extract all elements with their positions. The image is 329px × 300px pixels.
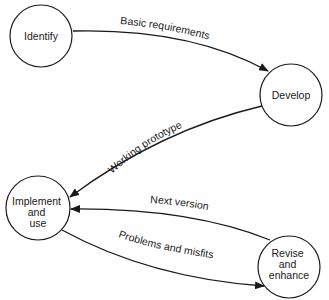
edge-label-working-prototype: Working prototype [105,118,183,175]
node-revise: Revise and enhance [258,236,320,298]
prototyping-cycle-diagram: Basic requirements Working prototype Nex… [0,0,329,300]
node-develop: Develop [260,64,322,126]
node-label-implement-line-3: use [30,217,47,229]
edge-basic-requirements: Basic requirements [73,14,268,71]
arrow-working-prototype [70,106,262,197]
diagram-svg: Basic requirements Working prototype Nex… [0,0,329,300]
edge-next-version: Next version [71,193,270,240]
edge-label-problems-and-misfits: Problems and misfits [117,228,214,261]
arrow-basic-requirements [73,31,268,71]
node-identify: Identify [10,5,72,67]
edge-problems-and-misfits: Problems and misfits [62,228,264,286]
node-label-develop: Develop [272,89,311,101]
arrow-problems-and-misfits [62,230,264,286]
node-label-revise-line-3: enhance [269,269,309,281]
node-label-identify: Identify [24,30,59,42]
arrow-next-version [71,209,270,240]
edge-working-prototype: Working prototype [70,106,262,197]
node-implement: Implement and use [6,176,70,240]
edge-label-next-version: Next version [150,193,210,212]
